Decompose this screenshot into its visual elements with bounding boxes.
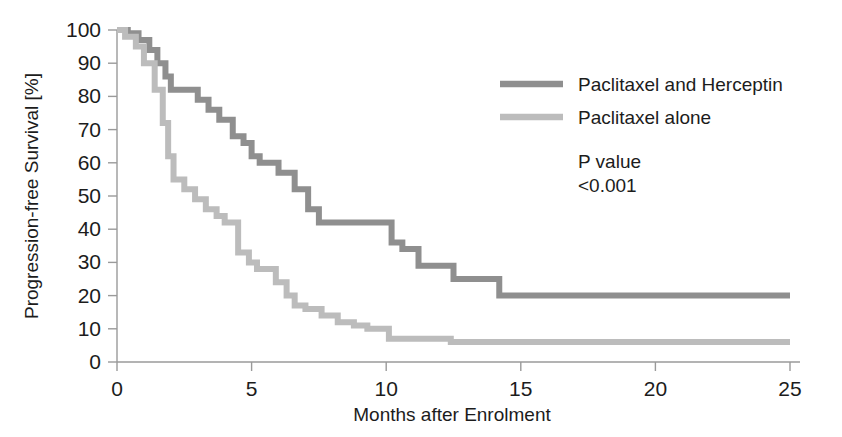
x-tick-label: 25 (778, 377, 801, 400)
y-tick-label: 70 (78, 118, 101, 141)
x-tick-label: 15 (509, 377, 532, 400)
y-tick-label: 90 (78, 51, 101, 74)
y-tick-label: 60 (78, 151, 101, 174)
y-tick-label: 20 (78, 284, 101, 307)
kaplan-meier-chart: 0102030405060708090100 Progression-free … (0, 0, 842, 437)
plot-background (0, 0, 842, 437)
y-tick-label: 50 (78, 184, 101, 207)
x-tick-label: 5 (246, 377, 258, 400)
y-tick-label: 40 (78, 217, 101, 240)
x-axis-title: Months after Enrolment (353, 404, 551, 425)
p-value-label: P value (578, 151, 641, 172)
x-tick-label: 20 (644, 377, 667, 400)
x-tick-label: 10 (375, 377, 398, 400)
y-tick-label: 80 (78, 84, 101, 107)
legend-label-paclitaxel-and-herceptin: Paclitaxel and Herceptin (578, 74, 783, 95)
y-tick-label: 30 (78, 250, 101, 273)
y-tick-label: 10 (78, 317, 101, 340)
km-survival-plot: 0102030405060708090100 Progression-free … (0, 0, 842, 437)
y-axis-title: Progression-free Survival [%] (21, 73, 42, 319)
p-value-number: <0.001 (578, 175, 637, 196)
y-tick-label: 100 (66, 18, 101, 41)
legend-label-paclitaxel-alone: Paclitaxel alone (578, 107, 711, 128)
y-tick-label: 0 (89, 350, 101, 373)
x-tick-label: 0 (111, 377, 123, 400)
